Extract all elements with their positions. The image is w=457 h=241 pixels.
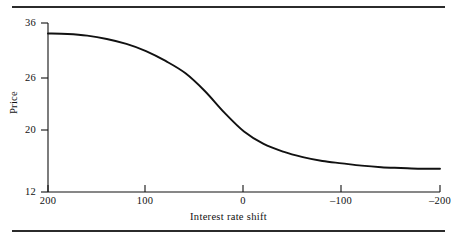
y-axis-ticks xyxy=(41,23,48,192)
y-tick-label-20: 20 xyxy=(10,125,36,136)
y-tick-label-36: 36 xyxy=(10,18,36,29)
plot-area: 36 26 20 12 200 100 0 –100 –200 Interest… xyxy=(0,0,457,241)
x-tick-label-minus100: –100 xyxy=(313,196,369,207)
x-tick-label-200: 200 xyxy=(20,196,76,207)
price-curve xyxy=(48,33,440,168)
figure-container: 36 26 20 12 200 100 0 –100 –200 Interest… xyxy=(0,0,457,241)
x-tick-label-minus200: –200 xyxy=(412,196,457,207)
x-axis-title: Interest rate shift xyxy=(0,211,457,222)
x-tick-label-100: 100 xyxy=(117,196,173,207)
x-tick-label-0: 0 xyxy=(215,196,271,207)
y-axis-title: Price xyxy=(8,79,19,127)
x-axis-ticks xyxy=(48,185,440,192)
